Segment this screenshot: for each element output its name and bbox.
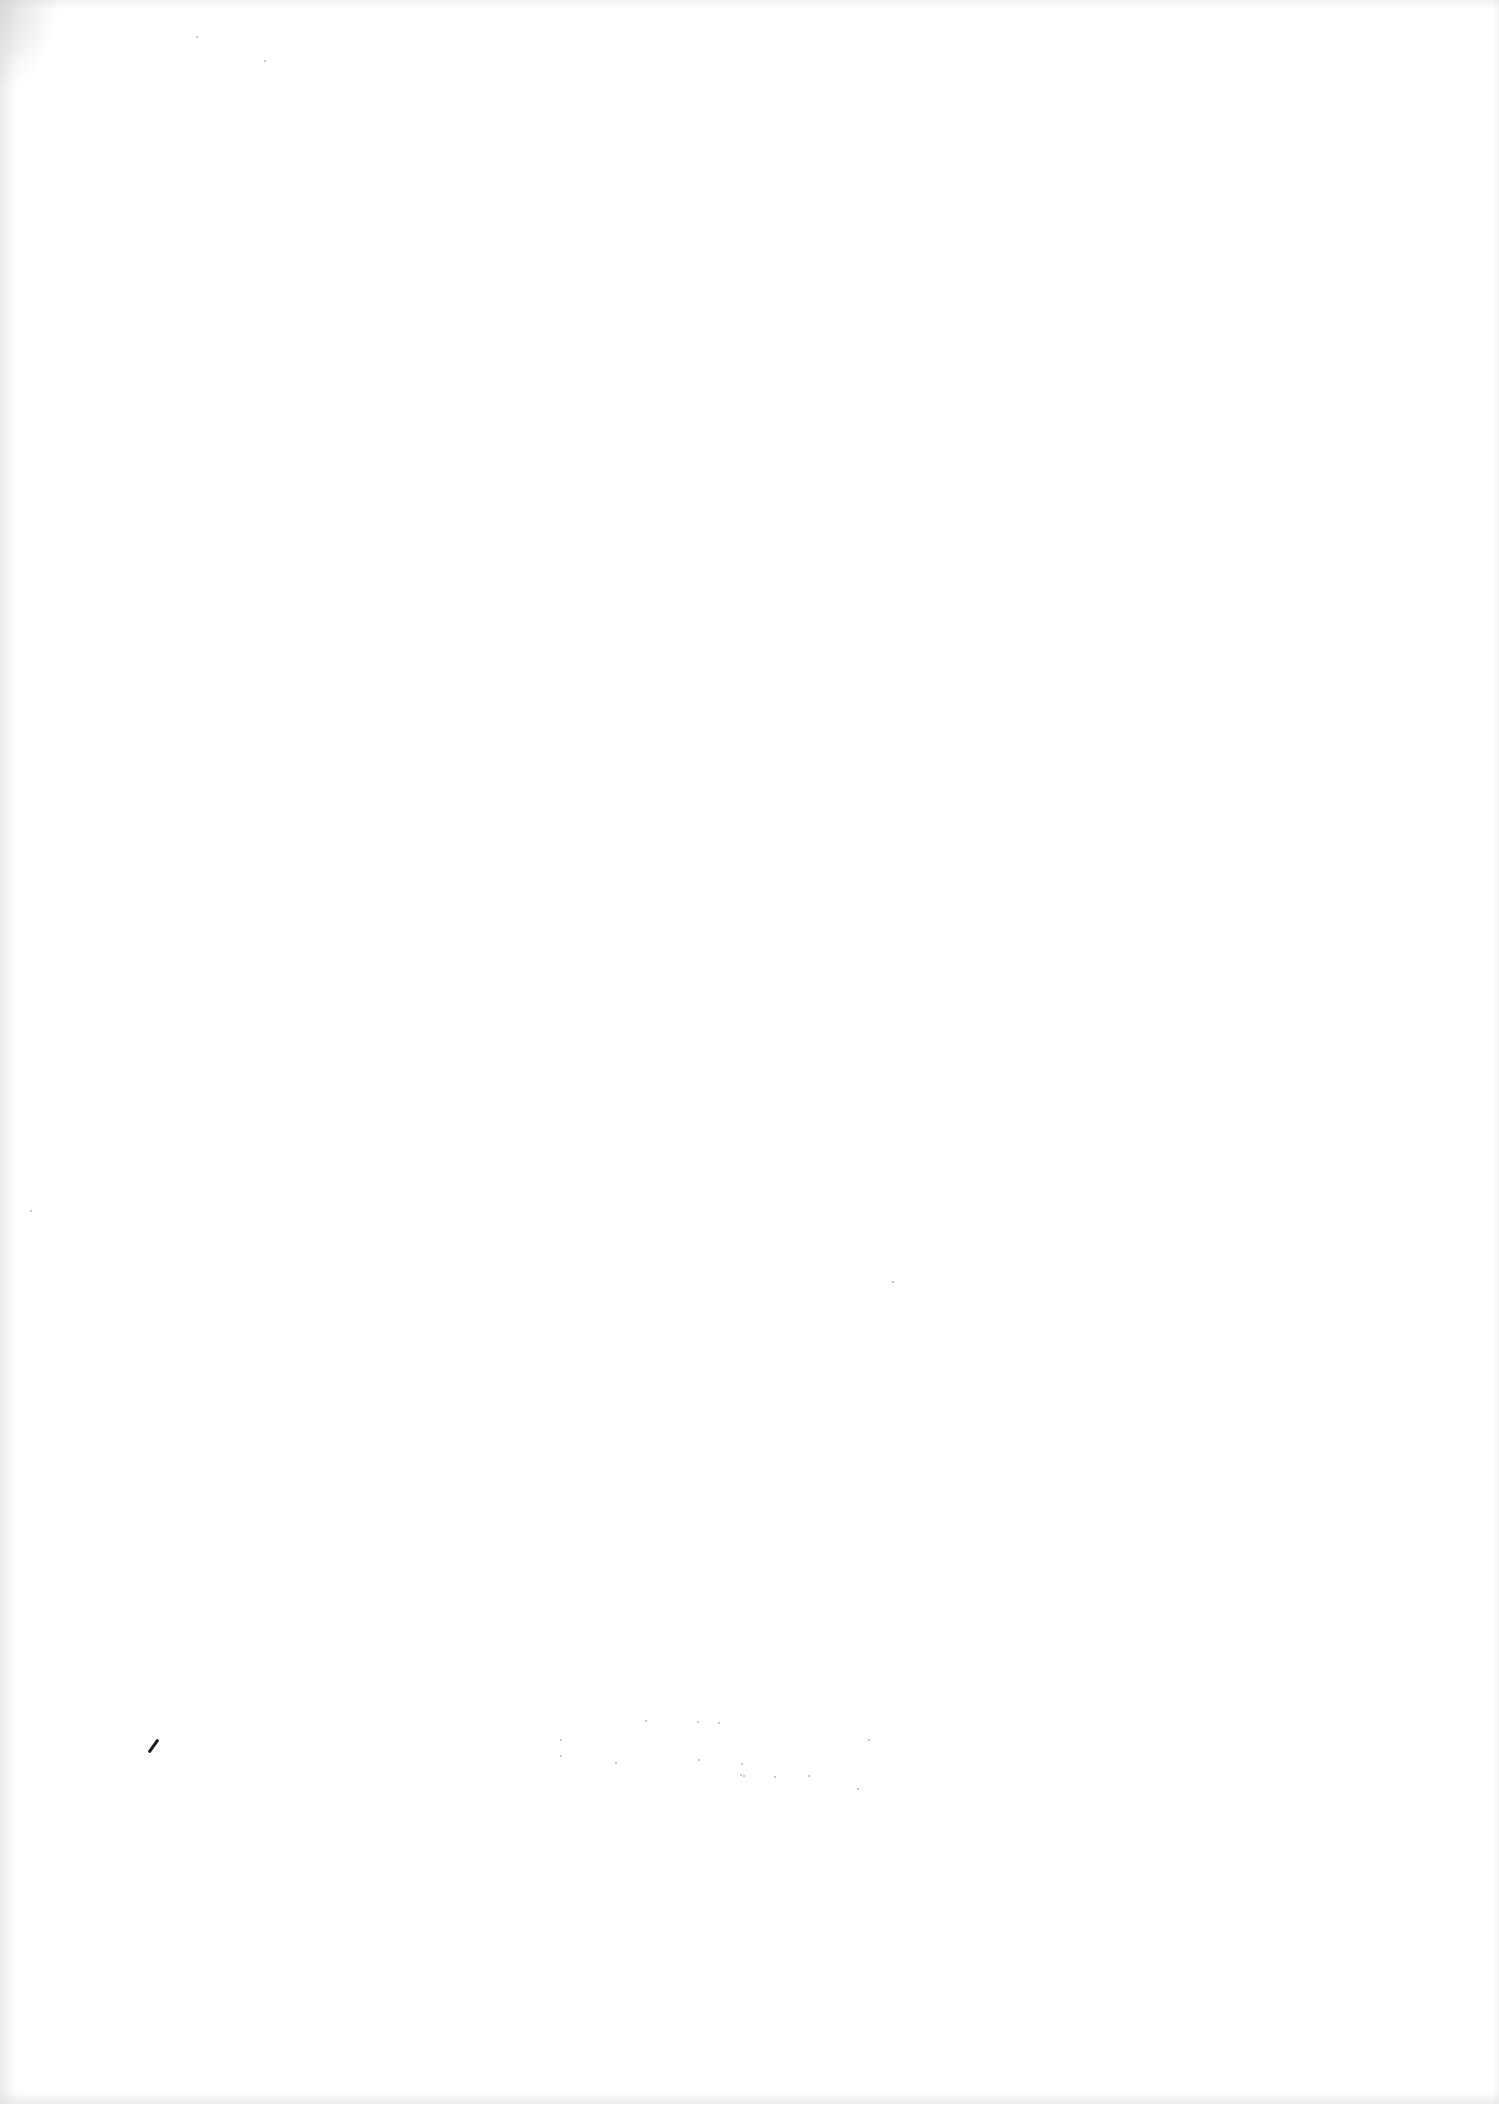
scan-speck: [892, 1281, 894, 1283]
scan-speck: [857, 1788, 859, 1790]
scan-speck: [196, 36, 198, 38]
blank-document-page: [0, 0, 1499, 2104]
scan-speck: [264, 60, 266, 62]
stray-pen-mark: [148, 1739, 160, 1754]
scan-speck: [645, 1720, 647, 1722]
scan-speck: [808, 1775, 810, 1777]
scan-edge-bottom: [0, 2090, 1499, 2104]
scan-speck: [718, 1722, 720, 1724]
scan-speck: [698, 1759, 700, 1761]
scan-speck: [774, 1776, 776, 1778]
scan-edge-top: [0, 0, 1499, 10]
scan-speck: [743, 1775, 745, 1777]
scan-speck: [697, 1721, 699, 1723]
scan-speck: [560, 1739, 562, 1741]
scan-speck: [560, 1755, 562, 1757]
scan-speck: [30, 1210, 32, 1212]
scan-edge-right: [1493, 0, 1499, 2104]
scan-speck: [741, 1763, 743, 1765]
scan-speck: [740, 1774, 742, 1776]
scan-edge-left: [0, 0, 18, 2104]
scan-speck: [868, 1739, 870, 1741]
scan-speck: [615, 1762, 617, 1764]
scan-corner-smudge: [0, 0, 60, 90]
